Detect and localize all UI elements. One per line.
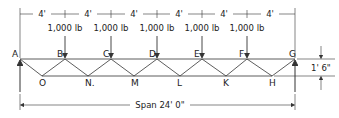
- spacing-label: 4': [220, 9, 228, 19]
- node-label-k: K: [223, 78, 230, 88]
- load-arrows: [65, 36, 247, 57]
- span-label: Span 24' 0": [135, 100, 184, 110]
- node-label-e: E: [194, 49, 200, 59]
- spacing-label: 4': [175, 9, 183, 19]
- height-label: 1' 6": [311, 63, 331, 73]
- spacing-label: 4': [38, 9, 46, 19]
- node-label-d: D: [149, 49, 156, 59]
- node-label-a: A: [12, 49, 19, 59]
- load-label-d: 1,000 lb: [140, 23, 175, 33]
- panel-spacing-dimensions: [20, 10, 295, 18]
- load-label-e: 1,000 lb: [185, 23, 220, 33]
- node-label-l: L: [177, 78, 182, 88]
- load-label-b: 1,000 lb: [48, 23, 83, 33]
- load-label-f: 1,000 lb: [230, 23, 265, 33]
- node-label-b: B: [57, 49, 63, 59]
- truss-diagram: 4' 4' 4' 4' 4' 4' 1,000 lb 1,000 lb 1,00…: [0, 0, 339, 118]
- node-label-c: C: [103, 49, 109, 59]
- node-label-n: N.: [85, 78, 95, 88]
- node-label-f: F: [239, 49, 244, 59]
- web-members: [20, 59, 295, 76]
- truss-members: [20, 59, 295, 76]
- spacing-label: 4': [130, 9, 138, 19]
- node-label-o: O: [39, 78, 46, 88]
- load-label-c: 1,000 lb: [94, 23, 129, 33]
- node-label-h: H: [269, 78, 276, 88]
- support-reactions: [20, 61, 295, 92]
- node-label-g: G: [289, 49, 296, 59]
- spacing-label: 4': [266, 9, 274, 19]
- node-label-m: M: [131, 78, 139, 88]
- spacing-label: 4': [84, 9, 92, 19]
